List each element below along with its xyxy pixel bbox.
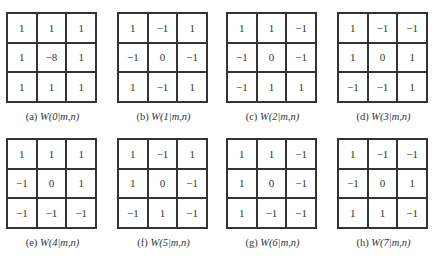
mask-panel: 1−1110−1−11−1(f) W(5|m,n) [117, 138, 210, 248]
matrix-cell: 1 [66, 43, 96, 73]
mask-matrix: 11−110−11−1−1 [226, 138, 317, 229]
matrix-cell: −1 [286, 139, 316, 169]
matrix-cell: 1 [338, 13, 368, 43]
matrix-cell: −1 [7, 198, 37, 228]
panel-caption: (c) W(2|m,n) [226, 111, 319, 122]
matrix-cell: 1 [7, 139, 37, 169]
matrix-cell: −1 [37, 198, 67, 228]
matrix-cell: 0 [148, 169, 178, 199]
matrix-cell: 1 [66, 72, 96, 102]
matrix-cell: −1 [227, 72, 257, 102]
mask-panel: 1−1−1−10111−1(h) W(7|m,n) [337, 138, 430, 248]
mask-panel: 111−101−1−1−1(e) W(4|m,n) [6, 138, 99, 248]
caption-title: W(6|m,n) [260, 237, 299, 248]
caption-label: (a) [26, 111, 38, 122]
panel-caption: (g) W(6|m,n) [226, 237, 319, 248]
mask-matrix: 1−11−10−11−11 [117, 12, 208, 103]
matrix-cell: 1 [338, 139, 368, 169]
matrix-cell: 1 [368, 198, 398, 228]
matrix-cell: −1 [397, 139, 427, 169]
matrix-cell: 1 [257, 139, 287, 169]
matrix-cell: −1 [227, 43, 257, 73]
mask-panel: 1−1−1101−1−11(d) W(3|m,n) [337, 12, 430, 122]
panel-caption: (d) W(3|m,n) [337, 111, 430, 122]
matrix-cell: 1 [37, 139, 67, 169]
mask-matrix: 1−1110−1−11−1 [117, 138, 208, 229]
matrix-cell: −1 [368, 13, 398, 43]
matrix-cell: −1 [286, 198, 316, 228]
matrix-cell: −1 [177, 198, 207, 228]
caption-label: (b) [136, 111, 148, 122]
matrix-cell: −1 [286, 13, 316, 43]
panel-caption: (a) W(0|m,n) [6, 111, 99, 122]
matrix-cell: 1 [257, 13, 287, 43]
matrix-cell: −1 [368, 139, 398, 169]
matrix-cell: 1 [397, 43, 427, 73]
caption-title: W(5|m,n) [150, 237, 189, 248]
matrix-cell: −1 [368, 72, 398, 102]
matrix-cell: 1 [397, 169, 427, 199]
matrix-cell: 1 [7, 13, 37, 43]
panel-caption: (b) W(1|m,n) [117, 111, 210, 122]
matrix-cell: −1 [118, 43, 148, 73]
matrix-cell: −1 [66, 198, 96, 228]
caption-title: W(1|m,n) [151, 111, 190, 122]
matrix-cell: 1 [338, 43, 368, 73]
matrix-cell: 1 [177, 13, 207, 43]
mask-matrix: 1−1−1101−1−11 [337, 12, 428, 103]
matrix-cell: −1 [7, 169, 37, 199]
matrix-cell: 1 [227, 198, 257, 228]
caption-label: (c) [246, 111, 258, 122]
mask-panel: 1111−81111(a) W(0|m,n) [6, 12, 99, 122]
matrix-cell: −1 [397, 13, 427, 43]
matrix-cell: 0 [257, 43, 287, 73]
matrix-cell: 1 [7, 72, 37, 102]
matrix-cell: −1 [338, 72, 368, 102]
matrix-cell: 1 [37, 13, 67, 43]
matrix-cell: 1 [286, 72, 316, 102]
matrix-cell: 1 [148, 198, 178, 228]
matrix-cell: −1 [338, 169, 368, 199]
matrix-cell: 1 [338, 198, 368, 228]
matrix-cell: 0 [148, 43, 178, 73]
mask-matrix: 111−101−1−1−1 [6, 138, 97, 229]
matrix-cell: 0 [368, 169, 398, 199]
mask-panel: 11−110−11−1−1(g) W(6|m,n) [226, 138, 319, 248]
matrix-cell: 1 [66, 139, 96, 169]
matrix-cell: 0 [368, 43, 398, 73]
mask-matrix: 1−1−1−10111−1 [337, 138, 428, 229]
matrix-cell: 1 [118, 169, 148, 199]
matrix-cell: 1 [227, 139, 257, 169]
matrix-cell: −1 [148, 72, 178, 102]
matrix-cell: 1 [37, 72, 67, 102]
matrix-cell: 0 [257, 169, 287, 199]
matrix-cell: 1 [397, 72, 427, 102]
matrix-cell: 1 [66, 13, 96, 43]
panel-caption: (e) W(4|m,n) [6, 237, 99, 248]
matrix-cell: 1 [257, 72, 287, 102]
matrix-cell: 1 [227, 13, 257, 43]
caption-title: W(0|m,n) [40, 111, 79, 122]
panel-caption: (h) W(7|m,n) [337, 237, 430, 248]
mask-panel: 1−11−10−11−11(b) W(1|m,n) [117, 12, 210, 122]
caption-label: (e) [26, 237, 38, 248]
matrix-cell: 1 [118, 72, 148, 102]
matrix-cell: 1 [7, 43, 37, 73]
matrix-cell: 0 [37, 169, 67, 199]
matrix-cell: 1 [227, 169, 257, 199]
matrix-cell: −1 [148, 13, 178, 43]
matrix-cell: 1 [177, 72, 207, 102]
caption-title: W(3|m,n) [371, 111, 410, 122]
mask-matrix: 11−1−10−1−111 [226, 12, 317, 103]
caption-label: (d) [356, 111, 368, 122]
matrix-cell: −1 [148, 139, 178, 169]
matrix-cell: 1 [177, 139, 207, 169]
caption-title: W(7|m,n) [371, 237, 410, 248]
caption-label: (g) [245, 237, 257, 248]
mask-panel: 11−1−10−1−111(c) W(2|m,n) [226, 12, 319, 122]
matrix-cell: −1 [257, 198, 287, 228]
matrix-cell: 1 [118, 13, 148, 43]
matrix-cell: 1 [66, 169, 96, 199]
caption-label: (h) [356, 237, 368, 248]
matrix-cell: −1 [177, 169, 207, 199]
